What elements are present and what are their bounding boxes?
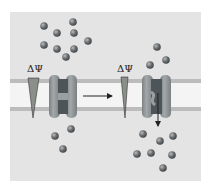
right-potential-label: ΔΨ <box>117 63 133 74</box>
ion-left-above <box>53 29 61 37</box>
ion-left-above <box>40 22 48 30</box>
ion-right-below <box>133 150 141 158</box>
ion-right-below <box>169 132 177 140</box>
ion-right-below <box>156 137 164 145</box>
ion-left-above <box>53 45 61 53</box>
membrane <box>10 79 201 111</box>
ion-left-above <box>84 37 92 45</box>
left-potential-label: ΔΨ <box>27 63 43 74</box>
ion-right-above <box>162 56 170 64</box>
ion-left-above <box>70 29 78 37</box>
ion-right-below <box>159 164 167 172</box>
ion-left-above <box>40 41 48 49</box>
ion-left-below <box>59 145 67 153</box>
ion-right-below <box>168 151 176 159</box>
open-channel <box>142 75 171 118</box>
ion-right-above <box>146 61 154 69</box>
ion-right-below <box>139 130 147 138</box>
ion-left-below <box>51 132 59 140</box>
ion-right-above <box>153 43 161 51</box>
ion-left-above <box>62 53 70 61</box>
ion-left-above <box>69 18 77 26</box>
ion-left-above <box>70 45 78 53</box>
ion-right-below <box>147 149 155 157</box>
closed-channel <box>49 75 77 118</box>
ion-channel-diagram: ΔΨ ΔΨ <box>0 0 209 192</box>
ion-left-below <box>67 125 75 133</box>
